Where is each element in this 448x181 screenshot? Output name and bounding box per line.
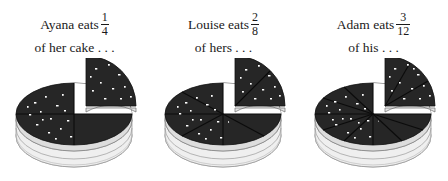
- caption-lead-text: Ayana eats: [40, 17, 98, 32]
- cake-svg: [149, 58, 298, 181]
- cake-diagram-louise: [149, 58, 298, 181]
- cake-column-ayana: Ayana eats14 of her cake . . .: [0, 0, 149, 181]
- fraction-cakes-figure: Ayana eats14 of her cake . . .: [0, 0, 448, 181]
- caption-adam: Adam eats312 of his . . .: [299, 11, 448, 55]
- fraction-two-eighths: 28: [251, 11, 259, 38]
- caption-lead-text: Louise eats: [188, 17, 249, 32]
- fraction-denominator: 12: [396, 25, 410, 38]
- fraction-numerator: 3: [396, 11, 410, 24]
- caption-ayana: Ayana eats14 of her cake . . .: [0, 11, 149, 55]
- caption-line-1: Ayana eats14: [40, 11, 108, 38]
- cake-separated-slice: [385, 58, 435, 112]
- fraction-denominator: 4: [101, 25, 109, 38]
- cake-column-adam: Adam eats312 of his . . .: [299, 0, 448, 181]
- fraction-denominator: 8: [251, 25, 259, 38]
- cake-separated-slice: [235, 58, 285, 112]
- fraction-numerator: 1: [101, 11, 109, 24]
- caption-line-1: Louise eats28: [188, 11, 259, 38]
- cake-separated-slice: [86, 58, 136, 112]
- cake-diagram-adam: [299, 58, 448, 181]
- caption-line-2: of her cake . . .: [0, 41, 149, 55]
- fraction-three-twelfths: 312: [396, 11, 410, 38]
- caption-line-2: of hers . . .: [149, 41, 298, 55]
- fraction-numerator: 2: [251, 11, 259, 24]
- caption-line-2: of his . . .: [299, 41, 448, 55]
- cake-column-louise: Louise eats28 of hers . . .: [149, 0, 298, 181]
- cake-svg: [299, 58, 448, 181]
- cake-diagram-ayana: [0, 58, 149, 181]
- caption-louise: Louise eats28 of hers . . .: [149, 11, 298, 55]
- caption-line-1: Adam eats312: [337, 11, 410, 38]
- caption-lead-text: Adam eats: [337, 17, 394, 32]
- cake-svg: [0, 58, 149, 181]
- fraction-one-quarter: 14: [101, 11, 109, 38]
